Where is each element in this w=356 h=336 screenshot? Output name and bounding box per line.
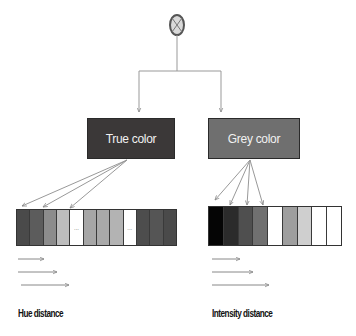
intensity-cell (239, 207, 254, 245)
circle-x-icon (170, 15, 184, 35)
hue-cell: ... (124, 210, 137, 245)
hue-cell (17, 210, 30, 245)
connector-lines (0, 0, 356, 336)
hue-cell (84, 210, 97, 245)
intensity-distance-label: Intensity distance (212, 308, 272, 319)
intensity-cell (253, 207, 268, 245)
hue-cell (137, 210, 150, 245)
hue-cell: ... (70, 210, 83, 245)
hue-color-strip: ...... (16, 209, 177, 246)
intensity-cell (268, 207, 283, 245)
grey-color-node: Grey color (208, 118, 300, 159)
hue-cell (164, 210, 176, 245)
intensity-cell (298, 207, 313, 245)
hue-cell (110, 210, 123, 245)
intensity-cell (209, 207, 224, 245)
intensity-cell (327, 207, 341, 245)
intensity-distance-arrows (212, 259, 269, 285)
hue-distance-label: Hue distance (18, 308, 63, 319)
intensity-cell (283, 207, 298, 245)
hue-cell (97, 210, 110, 245)
hue-cell (57, 210, 70, 245)
hue-cell (30, 210, 43, 245)
true-color-node: True color (87, 118, 175, 159)
intensity-cell (312, 207, 327, 245)
hue-cell (150, 210, 163, 245)
hue-cell (44, 210, 57, 245)
hue-distance-arrows (18, 259, 69, 285)
intensity-color-strip (208, 206, 342, 246)
true-color-label: True color (106, 132, 157, 146)
intensity-cell (224, 207, 239, 245)
grey-color-label: Grey color (228, 132, 280, 146)
